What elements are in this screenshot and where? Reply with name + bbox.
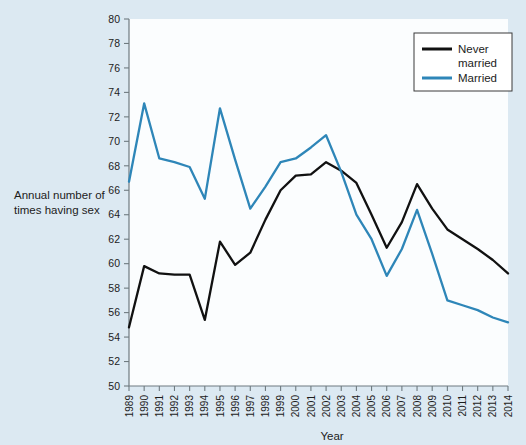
x-tick-label: 1991 xyxy=(154,395,165,418)
x-axis-title: Year xyxy=(320,430,343,442)
x-tick-label: 2002 xyxy=(321,395,332,418)
chart-container: 5052545658606264666870727476788019891990… xyxy=(0,0,526,445)
x-tick-label: 2013 xyxy=(487,395,498,418)
y-tick-label: 80 xyxy=(108,13,120,25)
x-tick-label: 2004 xyxy=(351,395,362,418)
x-tick-label: 2011 xyxy=(457,395,468,417)
x-tick-label: 2012 xyxy=(472,395,483,418)
y-tick-label: 76 xyxy=(108,62,120,74)
x-tick-label: 2007 xyxy=(396,395,407,418)
legend-label-never-married-line1: Never xyxy=(458,43,489,55)
x-axis-ticks: 1989199019911992199319941995199619971998… xyxy=(124,386,514,417)
x-tick-label: 1996 xyxy=(230,395,241,418)
x-tick-label: 1998 xyxy=(260,395,271,418)
x-tick-label: 2001 xyxy=(306,395,317,418)
x-tick-label: 1994 xyxy=(199,395,210,418)
y-tick-label: 52 xyxy=(108,355,120,367)
x-tick-label: 1995 xyxy=(215,395,226,418)
y-axis-title: Annual number oftimes having sex xyxy=(14,189,106,216)
x-tick-label: 2010 xyxy=(442,395,453,418)
x-tick-label: 2014 xyxy=(503,395,514,418)
y-tick-label: 64 xyxy=(108,208,120,220)
y-tick-label: 54 xyxy=(108,331,120,343)
x-tick-label: 2005 xyxy=(366,395,377,418)
y-tick-label: 50 xyxy=(108,380,120,392)
y-tick-label: 72 xyxy=(108,111,120,123)
x-tick-label: 1993 xyxy=(184,395,195,418)
y-axis-ticks: 50525456586062646668707274767880 xyxy=(108,13,129,392)
y-tick-label: 74 xyxy=(108,86,120,98)
x-tick-label: 2006 xyxy=(381,395,392,418)
y-tick-label: 62 xyxy=(108,233,120,245)
legend-label-never-married-line2: married xyxy=(458,57,497,69)
chart-legend: NevermarriedMarried xyxy=(414,33,512,91)
y-tick-label: 56 xyxy=(108,306,120,318)
legend-label-married: Married xyxy=(458,72,497,84)
line-chart: 5052545658606264666870727476788019891990… xyxy=(0,0,526,445)
y-tick-label: 60 xyxy=(108,257,120,269)
y-axis-title-line2: times having sex xyxy=(14,204,100,216)
y-tick-label: 78 xyxy=(108,37,120,49)
x-tick-label: 1990 xyxy=(139,395,150,418)
x-tick-label: 1999 xyxy=(275,395,286,418)
y-tick-label: 58 xyxy=(108,282,120,294)
y-axis-title-line1: Annual number of xyxy=(14,189,106,201)
x-tick-label: 2009 xyxy=(427,395,438,418)
x-tick-label: 1989 xyxy=(124,395,135,418)
x-tick-label: 2003 xyxy=(336,395,347,418)
x-tick-label: 1992 xyxy=(169,395,180,418)
x-tick-label: 1997 xyxy=(245,395,256,418)
y-tick-label: 68 xyxy=(108,160,120,172)
x-tick-label: 2008 xyxy=(412,395,423,418)
x-tick-label: 2000 xyxy=(290,395,301,418)
y-tick-label: 70 xyxy=(108,135,120,147)
y-tick-label: 66 xyxy=(108,184,120,196)
